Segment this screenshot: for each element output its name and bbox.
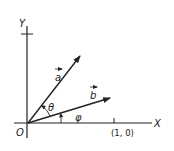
unit-point-label: (1, 0) (111, 128, 134, 138)
svg-text:b: b (90, 90, 96, 101)
y-axis-label: Y (19, 18, 26, 29)
svg-text:a: a (55, 72, 61, 83)
phi-arc (61, 114, 62, 124)
vector-angle-diagram: Y X O (1, 0) a b θ φ (0, 0, 174, 151)
x-axis-label: X (153, 118, 162, 129)
phi-label: φ (75, 112, 82, 123)
vector-a-label: a (55, 69, 62, 83)
theta-label: θ (48, 102, 54, 113)
vector-b-label: b (90, 87, 97, 101)
origin-label: O (16, 127, 24, 138)
vector-b (28, 98, 110, 123)
